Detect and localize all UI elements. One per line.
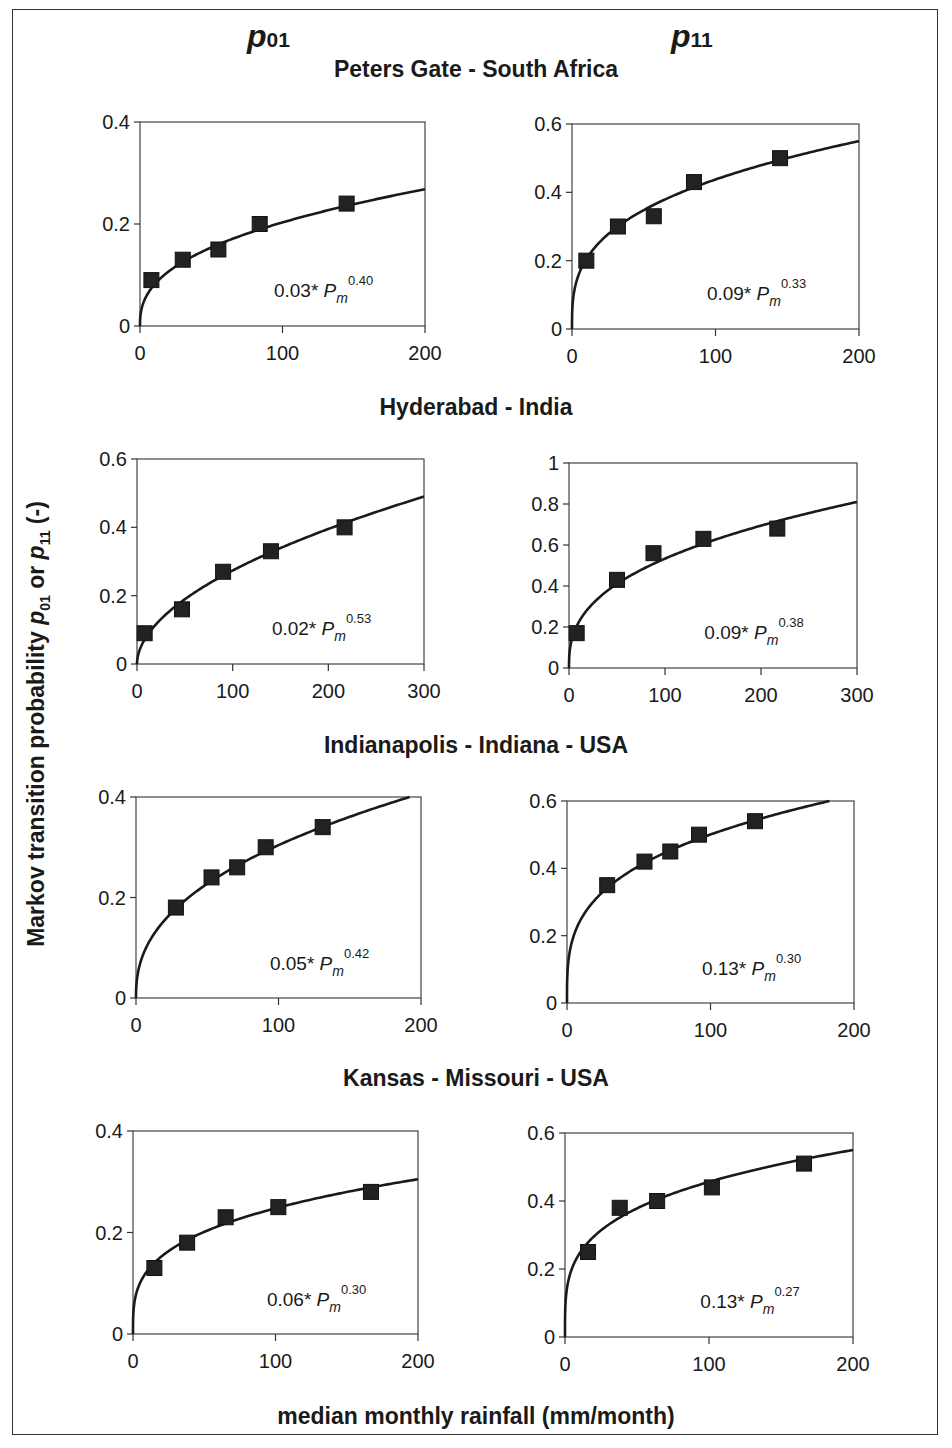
x-tick-label: 100 — [262, 1014, 295, 1036]
fit-equation-coefficient: 0.13* — [702, 958, 752, 979]
fit-equation-variable: P — [317, 1289, 330, 1310]
data-point-marker — [315, 820, 330, 835]
fit-equation-label: 0.03* Pm0.40 — [274, 273, 373, 306]
x-tick-label: 0 — [130, 1014, 141, 1036]
fit-equation-variable: P — [320, 953, 333, 974]
fit-equation-subscript: m — [763, 1301, 775, 1317]
y-tick-label: 0 — [115, 987, 126, 1009]
fit-equation-label: 0.02* Pm0.53 — [272, 611, 371, 644]
data-point-marker — [797, 1156, 812, 1171]
x-tick-label: 200 — [836, 1353, 869, 1375]
y-tick-label: 0.2 — [99, 585, 127, 607]
y-tick-label: 0.8 — [531, 493, 559, 515]
data-point-marker — [218, 1210, 233, 1225]
y-tick-label: 0 — [112, 1323, 123, 1345]
x-tick-label: 300 — [407, 680, 440, 702]
chart-panel-p11-7: 00.20.40.601002000.13* Pm0.27 — [527, 1122, 870, 1375]
data-point-marker — [686, 175, 701, 190]
x-tick-label: 200 — [401, 1350, 434, 1372]
fit-equation-coefficient: 0.05* — [270, 953, 320, 974]
x-tick-label: 200 — [744, 684, 777, 706]
data-point-marker — [637, 854, 652, 869]
data-point-marker — [363, 1184, 378, 1199]
data-point-marker — [216, 564, 231, 579]
data-point-marker — [704, 1180, 719, 1195]
x-tick-label: 100 — [216, 680, 249, 702]
x-tick-label: 200 — [842, 345, 875, 367]
data-point-marker — [579, 253, 594, 268]
fit-equation-label: 0.09* Pm0.33 — [707, 276, 806, 309]
fit-equation-variable: P — [324, 280, 337, 301]
data-point-marker — [144, 273, 159, 288]
data-point-marker — [663, 844, 678, 859]
y-tick-label: 0.4 — [534, 181, 562, 203]
data-point-marker — [211, 242, 226, 257]
fit-equation-coefficient: 0.09* — [707, 283, 757, 304]
data-point-marker — [692, 827, 707, 842]
fit-equation-coefficient: 0.03* — [274, 280, 324, 301]
data-point-marker — [569, 626, 584, 641]
data-point-marker — [770, 521, 785, 536]
fit-equation-exponent: 0.30 — [341, 1282, 366, 1297]
y-tick-label: 0 — [551, 318, 562, 340]
y-tick-label: 0 — [116, 653, 127, 675]
y-tick-label: 0.6 — [527, 1122, 555, 1144]
fit-equation-exponent: 0.53 — [346, 611, 371, 626]
data-point-marker — [646, 209, 661, 224]
fit-equation-subscript: m — [767, 632, 779, 648]
chart-panel-p01-2: 00.20.40.601002003000.02* Pm0.53 — [99, 448, 441, 702]
chart-panel-p11-3: 00.20.40.60.8101002003000.09* Pm0.38 — [531, 452, 874, 706]
data-point-marker — [773, 151, 788, 166]
x-tick-label: 100 — [692, 1353, 725, 1375]
y-tick-label: 0 — [119, 315, 130, 337]
fit-equation-exponent: 0.33 — [781, 276, 806, 291]
data-point-marker — [610, 219, 625, 234]
data-point-marker — [258, 840, 273, 855]
y-tick-label: 0.2 — [102, 213, 130, 235]
y-tick-label: 0.2 — [95, 1222, 123, 1244]
fit-equation-exponent: 0.40 — [348, 273, 373, 288]
data-point-marker — [696, 531, 711, 546]
fit-equation-exponent: 0.42 — [344, 946, 369, 961]
y-tick-label: 0.2 — [529, 925, 557, 947]
chart-panel-p11-5: 00.20.40.601002000.13* Pm0.30 — [529, 790, 871, 1041]
fit-equation-label: 0.13* Pm0.30 — [702, 951, 801, 984]
x-tick-label: 0 — [566, 345, 577, 367]
x-tick-label: 0 — [134, 342, 145, 364]
y-tick-label: 0.4 — [95, 1120, 123, 1142]
chart-panel-p01-4: 00.20.401002000.05* Pm0.42 — [98, 786, 438, 1036]
data-point-marker — [646, 546, 661, 561]
x-tick-label: 200 — [837, 1019, 870, 1041]
plots-canvas: 00.20.401002000.03* Pm0.4000.20.40.60100… — [0, 0, 952, 1448]
x-tick-label: 100 — [694, 1019, 727, 1041]
y-tick-label: 0.4 — [98, 786, 126, 808]
fit-equation-label: 0.06* Pm0.30 — [267, 1282, 366, 1315]
fit-equation-variable: P — [757, 283, 770, 304]
x-tick-label: 100 — [648, 684, 681, 706]
chart-panel-p01-6: 00.20.401002000.06* Pm0.30 — [95, 1120, 435, 1372]
data-point-marker — [612, 1200, 627, 1215]
y-tick-label: 0 — [546, 992, 557, 1014]
fit-equation-exponent: 0.30 — [776, 951, 801, 966]
y-tick-label: 0 — [548, 657, 559, 679]
fit-equation-coefficient: 0.13* — [700, 1291, 750, 1312]
data-point-marker — [610, 572, 625, 587]
fit-equation-coefficient: 0.06* — [267, 1289, 317, 1310]
x-tick-label: 200 — [404, 1014, 437, 1036]
fit-equation-subscript: m — [769, 293, 781, 309]
y-tick-label: 0.4 — [99, 516, 127, 538]
fit-equation-label: 0.13* Pm0.27 — [700, 1284, 799, 1317]
x-tick-label: 0 — [561, 1019, 572, 1041]
data-point-marker — [252, 217, 267, 232]
data-point-marker — [271, 1200, 286, 1215]
fit-equation-subscript: m — [336, 290, 348, 306]
data-point-marker — [747, 814, 762, 829]
x-tick-label: 100 — [259, 1350, 292, 1372]
chart-panel-p01-0: 00.20.401002000.03* Pm0.40 — [102, 111, 442, 364]
y-tick-label: 1 — [548, 452, 559, 474]
data-point-marker — [204, 870, 219, 885]
y-tick-label: 0.6 — [534, 113, 562, 135]
x-tick-label: 200 — [408, 342, 441, 364]
fit-equation-subscript: m — [334, 628, 346, 644]
fit-equation-subscript: m — [764, 968, 776, 984]
